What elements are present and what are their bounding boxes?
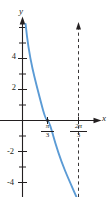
x-axis-label: x [102,114,106,123]
x-tick-label-2pi-over-3: 2π 3 [70,123,87,140]
y-axis-label: y [19,7,23,16]
x-tick-label-pi-over-3-denominator: 3 [41,132,54,139]
x-tick-label-pi-over-3-numerator: π [41,123,54,130]
x-tick-label-pi-over-3: π 3 [41,123,54,140]
y-tick-label-minus-4: -4 [0,178,14,187]
x-tick-label-2pi-over-3-numerator: 2π [70,123,87,130]
y-tick-label-minus-2: -2 [0,147,14,156]
x-axis-arrowhead [94,118,102,124]
y-tick-label-2: 2 [2,83,16,92]
coordinate-plot [0,0,112,197]
y-tick-label-4: 4 [2,52,16,61]
y-axis-arrowhead [20,17,26,25]
graph-figure: y x 4 2 -2 -4 π 3 2π 3 [0,0,112,197]
asymptote-arrowhead [76,22,81,30]
x-tick-label-2pi-over-3-denominator: 3 [70,132,87,139]
function-curve [26,24,77,197]
